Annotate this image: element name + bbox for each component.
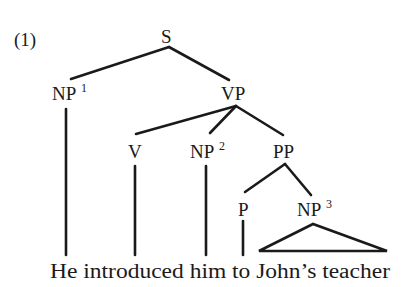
- node-np3: NP 3: [297, 197, 332, 220]
- node-np2-index: 2: [219, 139, 225, 153]
- edge-s-vp: [169, 47, 229, 80]
- node-np1-index: 1: [81, 81, 87, 95]
- node-np3-label: NP: [297, 199, 321, 220]
- edge-s-np1: [71, 47, 169, 79]
- node-np2-label: NP: [190, 141, 214, 162]
- edge-pp-np3: [285, 164, 311, 195]
- example-number: (1): [14, 29, 36, 51]
- edge-vp-pp: [236, 106, 283, 135]
- np3-triangle: [259, 224, 387, 251]
- node-p: P: [238, 199, 249, 220]
- node-np2: NP 2: [190, 139, 225, 162]
- node-np1: NP 1: [52, 81, 87, 104]
- node-np1-label: NP: [52, 83, 76, 104]
- sentence: He introduced him to John’s teacher: [50, 260, 390, 282]
- node-s: S: [161, 26, 172, 47]
- node-pp: PP: [273, 141, 294, 162]
- node-v: V: [128, 141, 142, 162]
- syntax-tree-diagram: (1) S NP 1 VP V NP 2 PP P NP 3 He introd…: [0, 0, 405, 287]
- node-vp: VP: [221, 83, 245, 104]
- node-np3-index: 3: [326, 197, 332, 211]
- edge-pp-p: [245, 164, 285, 192]
